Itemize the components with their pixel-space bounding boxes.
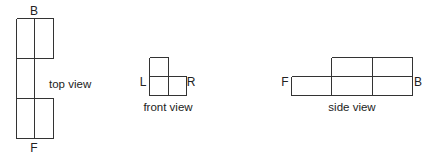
side-view-caption: side view — [328, 101, 376, 113]
top-view: B F top view — [17, 4, 92, 155]
side-view-back-label: B — [414, 75, 422, 89]
side-view: F B side view — [281, 58, 422, 114]
orthographic-views-diagram: B F top view L R front view F B side vie… — [0, 0, 433, 156]
top-view-caption: top view — [49, 78, 92, 90]
top-view-front-label: F — [30, 141, 37, 155]
top-view-back-label: B — [30, 4, 38, 18]
front-view-grid — [150, 58, 187, 96]
side-view-front-label: F — [281, 75, 288, 89]
diagram-canvas: B F top view L R front view F B side vie… — [0, 0, 433, 156]
front-view-caption: front view — [143, 101, 193, 113]
front-view: L R front view — [140, 58, 196, 114]
front-view-left-label: L — [140, 75, 147, 89]
side-view-grid — [292, 58, 413, 96]
front-view-right-label: R — [187, 75, 196, 89]
top-view-grid — [17, 19, 54, 139]
